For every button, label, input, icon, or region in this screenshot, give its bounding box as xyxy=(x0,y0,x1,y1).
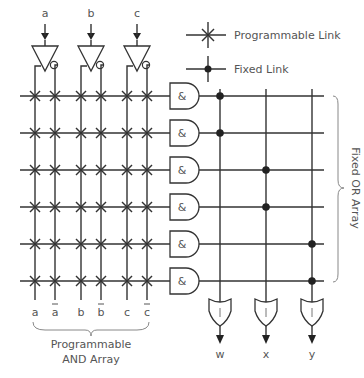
column-labels: aabbcc xyxy=(32,304,150,319)
fixed-link-icon xyxy=(262,166,270,174)
fixed-link-icon xyxy=(186,56,226,82)
input-label-a: a xyxy=(42,7,49,20)
or-array-label: Fixed OR Array xyxy=(349,147,362,229)
or-array-brace xyxy=(333,96,344,282)
column-label-a: a xyxy=(32,306,39,319)
column-label-c: c xyxy=(124,306,130,319)
column-label-b: b xyxy=(78,306,85,319)
fixed-link-icon xyxy=(308,277,316,285)
legend: Programmable Link Fixed Link xyxy=(186,22,341,82)
output-arrow-icon xyxy=(308,335,316,344)
programmable-link-label: Programmable Link xyxy=(234,29,341,42)
input-line-a-bar xyxy=(55,65,58,300)
fixed-or-array xyxy=(216,89,316,302)
output-label-w: w xyxy=(216,348,225,361)
input-buffer-c: c xyxy=(124,7,150,300)
input-line-c xyxy=(127,66,133,300)
input-buffers: abc xyxy=(32,7,150,300)
and-gate-6: & xyxy=(170,268,324,294)
output-label-y: y xyxy=(309,348,316,361)
and-gate-2: & xyxy=(170,120,324,146)
and-gate-symbol: & xyxy=(178,164,187,177)
or-gate-x: x xyxy=(255,299,277,361)
pla-diagram: Programmable Link Fixed Link abc &&&&&& … xyxy=(0,0,364,378)
input-label-c: c xyxy=(134,7,140,20)
and-gate-3: & xyxy=(170,157,324,183)
or-gate-w: w xyxy=(209,299,231,361)
column-label-a-bar: a xyxy=(52,306,59,319)
input-line-a xyxy=(35,66,41,300)
programmable-link-icon xyxy=(186,22,226,48)
and-gate-4: & xyxy=(170,194,324,220)
column-label-c-bar: c xyxy=(144,306,150,319)
fixed-link-icon xyxy=(216,129,224,137)
and-array-label-line2: AND Array xyxy=(62,353,120,366)
and-gate-symbol: & xyxy=(178,201,187,214)
and-gate-1: & xyxy=(170,83,324,109)
or-gates: wxy xyxy=(209,299,323,361)
input-buffer-b: b xyxy=(78,7,104,300)
input-line-b xyxy=(81,66,87,300)
input-label-b: b xyxy=(88,7,95,20)
fixed-link-icon xyxy=(216,92,224,100)
fixed-link-icon xyxy=(308,240,316,248)
or-gate-y: y xyxy=(301,299,323,361)
input-line-c-bar xyxy=(147,65,150,300)
and-gate-symbol: & xyxy=(178,90,187,103)
output-arrow-icon xyxy=(216,335,224,344)
and-array-brace xyxy=(33,322,149,336)
fixed-link-icon xyxy=(262,203,270,211)
and-gate-symbol: & xyxy=(178,127,187,140)
and-gate-symbol: & xyxy=(178,238,187,251)
input-line-b-bar xyxy=(101,65,104,300)
input-buffer-a: a xyxy=(32,7,58,300)
output-label-x: x xyxy=(263,348,270,361)
and-array-label-line1: Programmable xyxy=(51,338,132,351)
and-gates: &&&&&& xyxy=(170,83,324,294)
and-gate-5: & xyxy=(170,231,324,257)
and-gate-symbol: & xyxy=(178,275,187,288)
fixed-link-label: Fixed Link xyxy=(234,63,289,76)
column-label-b-bar: b xyxy=(98,306,105,319)
output-arrow-icon xyxy=(262,335,270,344)
